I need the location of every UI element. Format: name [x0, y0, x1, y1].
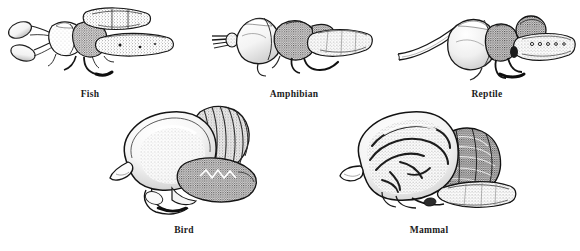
reptile-pituitary	[500, 74, 524, 77]
mammal-olfactory-bulb	[340, 166, 363, 181]
brain-panel-bird: Bird	[96, 100, 272, 246]
bird-brain-illustration	[96, 100, 272, 224]
fish-cranial-nerve-5	[48, 54, 56, 66]
brain-label-reptile: Reptile	[396, 90, 578, 100]
brain-panel-reptile: Reptile	[396, 8, 578, 104]
fish-cranial-nerve-4	[104, 56, 114, 62]
bird-optic-lobe	[177, 158, 256, 202]
brain-panel-fish: Fish	[0, 4, 180, 104]
fish-pituitary	[96, 72, 112, 75]
brain-label-amphibian: Amphibian	[208, 90, 380, 100]
bird-pituitary	[158, 208, 186, 211]
comparative-brain-figure: Fish	[0, 0, 580, 251]
amphibian-brain-illustration	[208, 6, 380, 90]
brain-label-bird: Bird	[96, 226, 272, 236]
brain-label-mammal: Mammal	[338, 226, 520, 236]
mammal-brain-illustration	[338, 104, 520, 224]
reptile-dark-nucleus	[510, 46, 518, 58]
fish-brain-illustration	[0, 4, 180, 90]
amphibian-olfactory-nerve-4	[214, 45, 229, 48]
fish-medulla-nucleus-3	[154, 43, 156, 45]
brain-panel-amphibian: Amphibian	[208, 6, 380, 104]
amphibian-cranial-nerve-2	[304, 58, 320, 70]
brain-label-fish: Fish	[0, 90, 180, 100]
fish-cranial-nerve-1	[64, 56, 76, 70]
fish-medulla-nucleus-1	[119, 44, 122, 47]
reptile-cranial-nerve-2	[508, 58, 522, 72]
fish-cranial-nerve-2	[84, 57, 96, 74]
fish-medulla-nucleus-2	[139, 46, 142, 49]
fish-olfactory-bulb-upper	[6, 19, 34, 42]
fish-cranial-nerve-3	[92, 56, 99, 68]
amphibian-cranial-nerve-3	[320, 62, 338, 70]
amphibian-ventral-nerve	[257, 64, 266, 76]
reptile-brain-illustration	[396, 8, 578, 90]
brain-panel-mammal: Mammal	[338, 104, 520, 246]
fish-olfactory-bulb-lower	[9, 42, 37, 64]
mammal-brain-stem	[438, 182, 516, 208]
bird-olfactory-bulb	[110, 162, 133, 180]
reptile-olfactory-bulb-tip	[398, 54, 399, 60]
